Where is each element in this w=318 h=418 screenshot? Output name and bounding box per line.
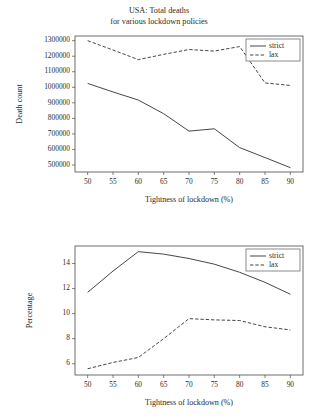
x-tick-label: 75: [211, 380, 219, 389]
x-tick-label: 50: [84, 380, 92, 389]
x-tick-label: 60: [135, 380, 143, 389]
x-tick-label: 65: [160, 380, 168, 389]
x-tick-label: 55: [109, 177, 117, 186]
plot-area-total-deaths: 5000006000007000008000009000001000000110…: [0, 0, 318, 208]
legend-label-lax: lax: [269, 50, 278, 59]
legend-label-lax: lax: [269, 260, 278, 269]
x-tick-label: 55: [109, 380, 117, 389]
y-tick-label: 1000000: [44, 82, 70, 91]
y-tick-label: 700000: [48, 129, 70, 138]
y-tick-label: 900000: [48, 98, 70, 107]
x-axis-label: Tightness of lockdown (%): [145, 398, 233, 407]
legend-label-strict: strict: [269, 251, 285, 260]
x-tick-label: 85: [261, 380, 269, 389]
x-tick-label: 75: [211, 177, 219, 186]
x-tick-label: 50: [84, 177, 92, 186]
x-tick-label: 60: [135, 177, 143, 186]
y-axis-label: Death count: [15, 84, 24, 124]
x-axis-label: Tightness of lockdown (%): [145, 195, 233, 204]
x-tick-label: 80: [236, 380, 244, 389]
y-tick-label: 600000: [48, 144, 70, 153]
x-tick-label: 90: [287, 380, 295, 389]
y-tick-label: 12: [63, 283, 71, 292]
series-line-strict: [88, 83, 291, 167]
y-tick-label: 1100000: [44, 66, 70, 75]
x-tick-label: 70: [185, 380, 193, 389]
x-tick-label: 70: [185, 177, 193, 186]
series-line-lax: [88, 319, 291, 369]
plot-area-income-loss: 68101214505560657075808590Tightness of l…: [0, 209, 318, 418]
y-tick-label: 6: [66, 358, 70, 367]
y-tick-label: 8: [66, 333, 70, 342]
y-tick-label: 1300000: [44, 35, 70, 44]
x-tick-label: 65: [160, 177, 168, 186]
y-axis-label: Percentage: [25, 292, 34, 328]
y-tick-label: 14: [63, 258, 71, 267]
x-tick-label: 80: [236, 177, 244, 186]
x-tick-label: 85: [261, 177, 269, 186]
chart-total-deaths: USA: Total deaths for various lockdown p…: [0, 0, 318, 208]
legend-label-strict: strict: [269, 41, 285, 50]
x-tick-label: 90: [287, 177, 295, 186]
chart-income-loss: USA: Income loss for various lockdown po…: [0, 209, 318, 418]
y-tick-label: 10: [63, 308, 71, 317]
y-tick-label: 1200000: [44, 51, 70, 60]
y-tick-label: 800000: [48, 113, 70, 122]
y-tick-label: 500000: [48, 160, 70, 169]
